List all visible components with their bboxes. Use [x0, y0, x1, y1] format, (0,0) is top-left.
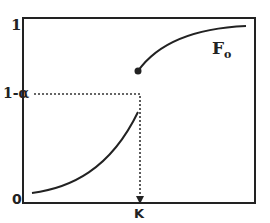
x-label-K: K	[134, 207, 144, 220]
diagram-canvas	[0, 0, 270, 223]
lower-curve	[32, 112, 138, 193]
y-label-1-alpha: 1-α	[3, 86, 29, 100]
jump-point-dot	[135, 68, 142, 75]
curve-label-F0: Fo	[212, 40, 231, 60]
y-label-1: 1	[11, 18, 21, 33]
y-label-0: 0	[12, 192, 22, 206]
curve-label-main: F	[212, 38, 224, 58]
dashed-guide-line	[34, 94, 140, 201]
curve-label-sub: o	[224, 48, 231, 61]
